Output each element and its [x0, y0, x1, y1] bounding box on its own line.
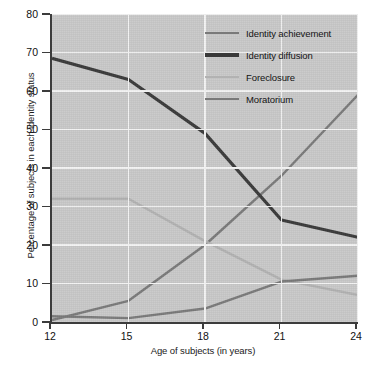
x-tick-label: 12: [35, 331, 65, 342]
y-tick-label: 80: [4, 9, 38, 20]
x-tick-label: 21: [265, 331, 295, 342]
legend-label: Foreclosure: [246, 72, 295, 83]
gridline-vertical: [128, 14, 130, 322]
legend-swatch: [205, 53, 239, 56]
legend-swatch: [205, 32, 239, 35]
y-tick-label: 50: [4, 124, 38, 135]
y-tick-mark: [42, 206, 50, 208]
y-tick-label: 70: [4, 47, 38, 58]
legend-label: Identity diffusion: [246, 50, 313, 61]
y-tick-mark: [42, 167, 50, 169]
y-tick-mark: [42, 90, 50, 92]
y-tick-label: 30: [4, 201, 38, 212]
legend-item-identity-achievement[interactable]: Identity achievement: [205, 22, 355, 44]
y-tick-label: 40: [4, 163, 38, 174]
x-tick-label: 15: [112, 331, 142, 342]
y-tick-mark: [42, 13, 50, 15]
legend-item-moratorium[interactable]: Moratorium: [205, 88, 355, 110]
legend-item-identity-diffusion[interactable]: Identity diffusion: [205, 44, 355, 66]
y-tick-mark: [42, 52, 50, 54]
line-chart: Percentage of subjects in each identity …: [0, 0, 372, 369]
y-tick-mark: [42, 129, 50, 131]
y-tick-label: 60: [4, 86, 38, 97]
y-tick-label: 0: [4, 317, 38, 328]
legend-label: Moratorium: [246, 94, 293, 105]
gridline-vertical: [357, 14, 358, 322]
x-tick-label: 18: [188, 331, 218, 342]
x-axis-title: Age of subjects (in years): [50, 345, 356, 356]
y-tick-label: 20: [4, 240, 38, 251]
legend-swatch: [205, 98, 239, 101]
legend-item-foreclosure[interactable]: Foreclosure: [205, 66, 355, 88]
y-tick-mark: [42, 283, 50, 285]
x-tick-label: 24: [341, 331, 371, 342]
y-tick-mark: [42, 244, 50, 246]
chart-legend: Identity achievementIdentity diffusionFo…: [205, 22, 355, 110]
y-tick-label: 10: [4, 278, 38, 289]
legend-label: Identity achievement: [246, 28, 331, 39]
legend-swatch: [205, 76, 239, 79]
